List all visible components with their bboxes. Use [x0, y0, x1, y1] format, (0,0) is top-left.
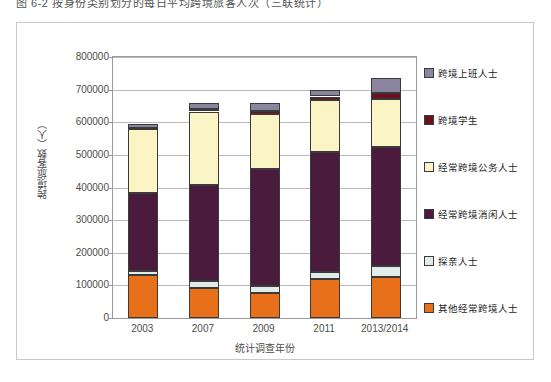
- y-tick-label: 100000: [76, 279, 109, 290]
- bar-stack[interactable]: [371, 57, 401, 318]
- bar-segment[interactable]: [371, 266, 401, 277]
- bar-segment[interactable]: [371, 93, 401, 100]
- y-axis-ticks: 0100000200000300000400000500000600000700…: [53, 49, 109, 327]
- legend-swatch: [424, 115, 434, 125]
- bar-segment[interactable]: [250, 111, 280, 114]
- legend-label: 跨境学生: [438, 113, 478, 127]
- bar-segment[interactable]: [371, 78, 401, 93]
- x-tick-label: 2013/2014: [361, 323, 408, 334]
- x-tick-label: 2011: [313, 323, 335, 334]
- y-tick-mark: [109, 318, 113, 319]
- y-tick-label: 800000: [76, 51, 109, 62]
- y-tick-label: 0: [103, 312, 109, 323]
- legend-label: 跨境上班人士: [438, 66, 498, 80]
- bar-segment[interactable]: [310, 90, 340, 97]
- legend-item[interactable]: 其他经常跨境人士: [424, 301, 518, 315]
- bar-segment[interactable]: [250, 286, 280, 293]
- legend-item[interactable]: 跨境学生: [424, 113, 478, 127]
- bar-segment[interactable]: [189, 109, 219, 111]
- chart-legend: 跨境上班人士跨境学生经常跨境公务人士经常跨境消闲人士探亲人士其他经常跨境人士: [424, 56, 544, 319]
- bar-segment[interactable]: [128, 129, 158, 193]
- legend-label: 探亲人士: [438, 254, 478, 268]
- y-tick-label: 700000: [76, 83, 109, 94]
- bar-segment[interactable]: [189, 103, 219, 109]
- bar-segment[interactable]: [310, 279, 340, 318]
- y-tick-label: 600000: [76, 116, 109, 127]
- chart-frame: 跨境旅客数（人） 0100000200000300000400000500000…: [16, 22, 534, 360]
- bar-stack[interactable]: [310, 57, 340, 318]
- bar-stack[interactable]: [250, 57, 280, 318]
- legend-swatch: [424, 303, 434, 313]
- bar-segment[interactable]: [189, 281, 219, 287]
- legend-swatch: [424, 68, 434, 78]
- bar-segment[interactable]: [128, 193, 158, 271]
- x-tick-label: 2003: [131, 323, 153, 334]
- bar-segment[interactable]: [250, 169, 280, 286]
- bar-stack[interactable]: [128, 57, 158, 318]
- legend-label: 经常跨境公务人士: [438, 160, 518, 174]
- bar-segment[interactable]: [310, 100, 340, 153]
- plot-area: [112, 56, 417, 319]
- x-tick-label: 2007: [192, 323, 214, 334]
- y-tick-label: 200000: [76, 246, 109, 257]
- x-axis-ticks: 20032007200920112013/2014: [112, 323, 417, 339]
- bar-segment[interactable]: [310, 152, 340, 271]
- bar-segment[interactable]: [310, 272, 340, 280]
- legend-label: 其他经常跨境人士: [438, 301, 518, 315]
- y-tick-label: 300000: [76, 214, 109, 225]
- bar-segment[interactable]: [250, 293, 280, 318]
- bar-stack[interactable]: [189, 57, 219, 318]
- bar-segment[interactable]: [128, 124, 158, 128]
- bar-segment[interactable]: [310, 97, 340, 100]
- bar-segment[interactable]: [371, 147, 401, 266]
- legend-item[interactable]: 经常跨境公务人士: [424, 160, 518, 174]
- x-tick-label: 2009: [252, 323, 274, 334]
- bar-segment[interactable]: [128, 271, 158, 275]
- bar-segment[interactable]: [371, 99, 401, 147]
- y-tick-label: 500000: [76, 148, 109, 159]
- legend-swatch: [424, 256, 434, 266]
- y-tick-label: 400000: [76, 181, 109, 192]
- legend-item[interactable]: 跨境上班人士: [424, 66, 498, 80]
- legend-item[interactable]: 探亲人士: [424, 254, 478, 268]
- bar-segment[interactable]: [250, 103, 280, 111]
- bar-segment[interactable]: [189, 288, 219, 318]
- y-axis-label: 跨境旅客数（人）: [37, 119, 53, 199]
- legend-swatch: [424, 209, 434, 219]
- x-axis-label: 统计调查年份: [112, 340, 417, 355]
- legend-swatch: [424, 162, 434, 172]
- bar-segment[interactable]: [189, 185, 219, 282]
- legend-label: 经常跨境消闲人士: [438, 207, 518, 221]
- legend-item[interactable]: 经常跨境消闲人士: [424, 207, 518, 221]
- bar-segment[interactable]: [250, 114, 280, 169]
- bar-segment[interactable]: [371, 277, 401, 318]
- bar-segment[interactable]: [128, 275, 158, 318]
- figure-caption: 图 6-2 按身份类别划分的每日平均跨境旅客人次（三联统计）: [16, 0, 536, 8]
- bar-segment[interactable]: [189, 112, 219, 185]
